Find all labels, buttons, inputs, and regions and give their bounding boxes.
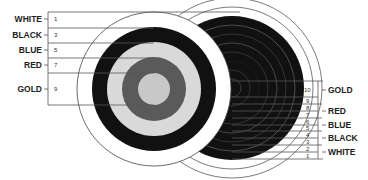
left-label-gold: GOLD <box>17 84 42 94</box>
right-score-2: 2 <box>306 146 310 152</box>
right-score-1: 1 <box>306 153 310 159</box>
right-label-gold: GOLD <box>328 85 353 95</box>
right-label-black: BLACK <box>328 133 359 143</box>
left-score-1: 1 <box>54 16 58 22</box>
left-score-9: 9 <box>54 86 58 92</box>
left-label-white: WHITE <box>15 14 43 24</box>
right-score-8: 8 <box>306 105 310 111</box>
left-label-black: BLACK <box>12 30 43 40</box>
right-label-red: RED <box>328 106 346 116</box>
right-score-3: 3 <box>306 139 310 145</box>
archery-target-diagram: WHITE BLACK BLUE RED GOLD 1 3 5 7 9 10 9… <box>0 0 368 180</box>
right-score-9: 9 <box>306 98 310 104</box>
left-score-7: 7 <box>54 62 58 68</box>
right-score-5: 5 <box>306 125 310 131</box>
left-label-blue: BLUE <box>19 45 42 55</box>
left-score-5: 5 <box>54 47 58 53</box>
right-label-blue: BLUE <box>328 120 351 130</box>
left-score-3: 3 <box>54 32 58 38</box>
left-target <box>77 12 231 166</box>
right-score-10: 10 <box>304 87 311 93</box>
right-score-4: 4 <box>306 132 310 138</box>
left-label-red: RED <box>24 60 42 70</box>
right-label-white: WHITE <box>328 147 356 157</box>
